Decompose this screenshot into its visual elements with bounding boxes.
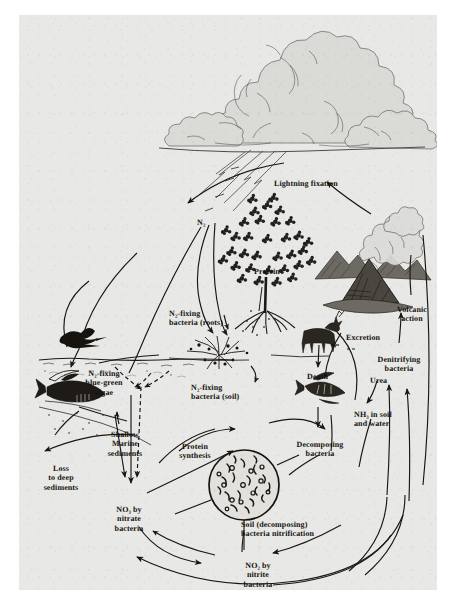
label-protein-synthesis: Protein synthesis bbox=[167, 433, 223, 461]
label-n2-fixing-blue-green-algae: N₂-fixing blue-green algae bbox=[71, 360, 137, 397]
label-protein: Protein bbox=[254, 258, 280, 276]
volcano-ash-plume bbox=[359, 207, 424, 266]
figure-page: Lightning fixation N₂ Protein Volcanic a… bbox=[0, 0, 449, 602]
label-n2-fixing-bacteria-roots: N₂-fixing bacteria (roots) bbox=[169, 300, 249, 328]
label-soil-decomposing-bacteria-nitrification: Soil (decomposing) bacteria nitrificatio… bbox=[241, 511, 351, 539]
label-lightning-fixation: Lightning fixation bbox=[274, 170, 338, 188]
label-urea: Urea bbox=[370, 367, 387, 385]
arrow-sediment-drop bbox=[55, 411, 79, 435]
label-no3-by-nitrate-bacteria: NO₃ by nitrate bacteria bbox=[101, 496, 157, 533]
label-death: Death bbox=[307, 363, 328, 381]
label-no2-by-nitrite-bacteria: NO₂ by nitrite bacteria bbox=[230, 552, 286, 589]
nitrogen-cycle-plate: Lightning fixation N₂ Protein Volcanic a… bbox=[19, 15, 437, 590]
ground-line bbox=[169, 355, 329, 361]
cumulonimbus-cloud bbox=[165, 31, 438, 149]
arrow-water-dashed-3 bbox=[145, 371, 169, 387]
label-loss-to-deep-sediments: Loss to deep sediments bbox=[33, 455, 89, 492]
label-nh3-in-soil-and-water: NH₃ in soil and water bbox=[354, 401, 420, 429]
arrow-no2-to-no3 bbox=[153, 531, 215, 555]
label-n2-fixing-bacteria-soil: N₂-fixing bacteria (soil) bbox=[191, 374, 265, 402]
arrow-denitrify-3 bbox=[365, 495, 405, 575]
arrow-denitrify-4 bbox=[349, 497, 387, 571]
label-decomposing-bacteria: Decomposing bacteria bbox=[285, 431, 355, 459]
label-n2: N₂ bbox=[197, 209, 205, 227]
label-excretion: Excretion bbox=[346, 324, 380, 342]
arrow-sky-to-sea-left bbox=[71, 253, 137, 367]
arrow-to-decomposing bbox=[269, 419, 325, 429]
label-shallow-marine-sediments: Shallow Marine sediments bbox=[97, 421, 153, 458]
label-volcanic-action: Volcanic action bbox=[385, 296, 437, 324]
